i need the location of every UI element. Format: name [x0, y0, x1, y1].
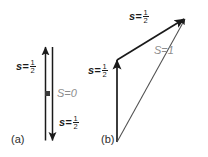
fraction-one-half: 12 — [30, 59, 36, 76]
panel-caption-b: (b) — [101, 134, 114, 145]
panel-caption-a: (a) — [11, 134, 24, 145]
vector-resultant-b — [117, 19, 185, 142]
label-spin-second-b: s=12 — [129, 9, 149, 26]
total-spin-value: 1 — [168, 44, 174, 56]
fraction-one-half: 12 — [73, 115, 79, 132]
equals-sign: = — [65, 116, 71, 128]
equals-sign: = — [22, 60, 28, 72]
panel-b-vectors — [117, 19, 185, 142]
resultant-zero-marker — [45, 91, 50, 96]
equals-sign: = — [94, 64, 100, 76]
total-spin-value: 0 — [71, 87, 77, 99]
fraction-one-half: 12 — [143, 9, 149, 26]
equals-sign: = — [135, 10, 141, 22]
label-total-spin-a: S=0 — [57, 88, 77, 99]
panel-a-vectors — [45, 47, 53, 141]
label-spin-down-a: s=12 — [59, 115, 79, 132]
label-spin-first-b: s=12 — [88, 63, 108, 80]
spin-vector-figure: s=12 S=0 s=12 (a) s=12 S=1 s=12 (b) — [0, 0, 208, 157]
label-total-spin-b: S=1 — [154, 45, 174, 56]
label-spin-up-a: s=12 — [16, 59, 36, 76]
fraction-one-half: 12 — [102, 63, 108, 80]
